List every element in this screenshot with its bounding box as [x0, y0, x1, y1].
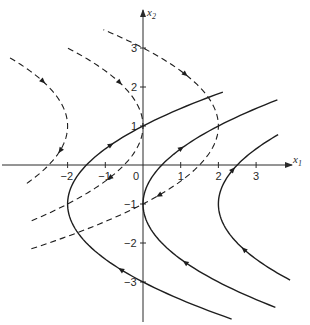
dashed-trajectory	[8, 57, 68, 184]
direction-arrow-icon	[107, 143, 113, 148]
dashed-trajectory	[31, 30, 218, 249]
solid-trajectory	[143, 100, 277, 307]
x-tick-label: 3	[253, 170, 259, 182]
direction-arrow-icon	[116, 79, 122, 85]
x-tick-label: 1	[178, 170, 184, 182]
solid-trajectory	[218, 135, 290, 280]
direction-arrow-icon	[39, 77, 45, 83]
x-tick-label: −1	[98, 170, 111, 182]
y-tick-label: 3	[131, 42, 137, 54]
solid-trajectory	[68, 92, 232, 319]
origin-label: 0	[133, 170, 139, 182]
trajectories	[8, 30, 290, 319]
direction-arrow-icon	[181, 70, 187, 76]
phase-portrait: −2−1123321−1−2−3 x1 x2 0	[0, 0, 310, 325]
direction-arrow-icon	[58, 147, 64, 153]
y-tick-label: 2	[131, 81, 137, 93]
x-tick-label: 2	[215, 170, 221, 182]
y-tick-label: −2	[124, 237, 137, 249]
direction-arrow-icon	[183, 261, 189, 267]
x1-axis-label: x1	[292, 153, 302, 168]
x2-axis-label: x2	[146, 6, 156, 21]
x-tick-label: −2	[61, 170, 74, 182]
